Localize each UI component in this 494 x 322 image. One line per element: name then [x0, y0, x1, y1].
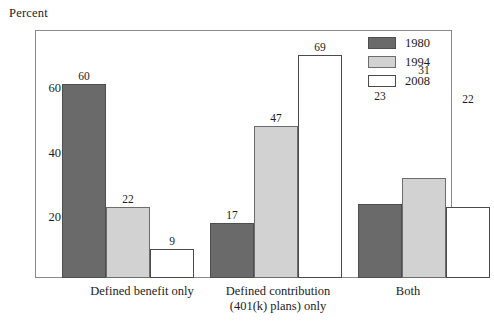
category-label-line-2: (401(k) plans) only — [148, 299, 408, 314]
category-label-line-1: Both — [396, 284, 420, 298]
bar-value-1980-defined-benefit-only: 60 — [56, 70, 112, 83]
bar-2008-defined-contribution-only[interactable] — [298, 55, 342, 278]
bar-value-1994-defined-benefit-only: 22 — [100, 193, 156, 206]
legend: 1980 1994 2008 — [358, 29, 452, 95]
bar-2008-both[interactable] — [446, 207, 490, 278]
bar-1994-both[interactable] — [402, 178, 446, 278]
category-label-both: Both — [278, 284, 494, 299]
y-axis-title: Percent — [9, 6, 48, 21]
bar-1980-both[interactable] — [358, 204, 402, 278]
bar-value-2008-defined-benefit-only: 9 — [144, 235, 200, 248]
bar-1994-defined-contribution-only[interactable] — [254, 126, 298, 278]
white-swatch-icon — [368, 75, 396, 87]
y-tick-label-20: 20 — [36, 209, 61, 226]
legend-label-1980: 1980 — [405, 36, 430, 50]
bar-value-1980-defined-contribution-only: 17 — [204, 209, 260, 222]
bar-1980-defined-contribution-only[interactable] — [210, 223, 254, 278]
legend-item-1994[interactable]: 1994 — [358, 52, 452, 71]
y-tick-label-40: 40 — [36, 145, 61, 162]
legend-label-2008: 2008 — [405, 74, 430, 88]
legend-label-1994: 1994 — [405, 55, 430, 69]
bar-1980-defined-benefit-only[interactable] — [62, 84, 106, 278]
light-gray-swatch-icon — [368, 56, 396, 68]
legend-item-2008[interactable]: 2008 — [358, 71, 452, 90]
legend-item-1980[interactable]: 1980 — [358, 33, 452, 52]
bar-2008-defined-benefit-only[interactable] — [150, 249, 194, 278]
bar-value-2008-defined-contribution-only: 69 — [292, 41, 348, 54]
bar-value-1994-defined-contribution-only: 47 — [248, 112, 304, 125]
dark-gray-swatch-icon — [368, 37, 396, 49]
